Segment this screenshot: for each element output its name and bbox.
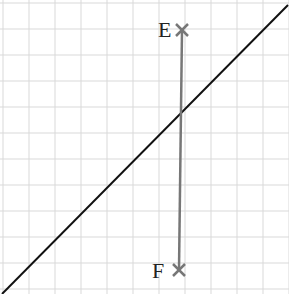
diagonal-line xyxy=(2,5,288,294)
diagram-canvas: E F xyxy=(0,0,289,294)
point-e-label: E xyxy=(158,19,171,41)
grid-lines xyxy=(0,0,289,294)
point-f-label: F xyxy=(152,260,164,282)
segment-ef xyxy=(179,30,182,270)
diagram-svg xyxy=(0,0,289,294)
